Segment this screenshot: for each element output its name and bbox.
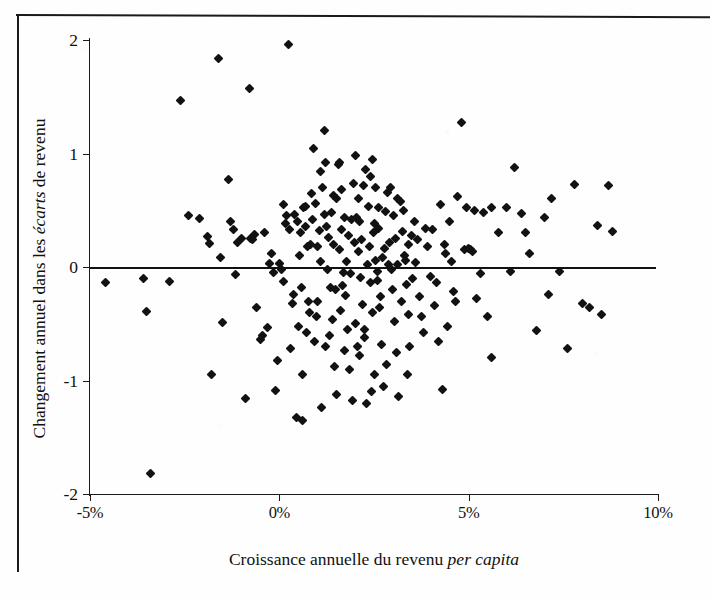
data-point [452, 192, 462, 202]
data-point [100, 278, 110, 288]
data-point [456, 118, 466, 128]
data-point [355, 217, 365, 227]
data-point [218, 318, 228, 328]
data-point [390, 317, 400, 327]
data-point [289, 289, 299, 299]
data-point [353, 194, 363, 204]
data-point [342, 256, 352, 266]
zero-reference-line [90, 267, 656, 269]
data-point [278, 277, 288, 287]
data-point [309, 337, 319, 347]
data-point [360, 324, 370, 334]
data-point [405, 341, 415, 351]
data-point [244, 84, 254, 94]
data-point [316, 167, 326, 177]
data-point [562, 344, 572, 354]
data-point [439, 239, 449, 249]
data-point [361, 398, 371, 408]
data-point [259, 228, 269, 238]
data-point [411, 258, 421, 268]
data-point [420, 223, 430, 233]
y-axis-title-part-2: de revenu [29, 119, 49, 192]
x-axis-title-italic: per capita [448, 549, 519, 569]
data-point [389, 211, 399, 221]
data-point [416, 312, 426, 322]
data-point [547, 194, 557, 204]
data-point [396, 296, 406, 306]
data-point [524, 248, 534, 258]
data-point [315, 256, 325, 266]
x-tick-label: -5% [55, 504, 125, 522]
y-axis-title-italic: écarts [29, 192, 49, 235]
data-point [381, 360, 391, 370]
data-point [379, 381, 389, 391]
data-point [293, 321, 303, 331]
data-point [138, 273, 148, 283]
data-point [288, 298, 298, 308]
x-tick-mark [658, 494, 659, 501]
data-point [308, 144, 318, 154]
data-point [366, 387, 376, 397]
data-point [240, 394, 250, 404]
data-point [343, 324, 353, 334]
data-point [437, 385, 447, 395]
data-point [206, 370, 216, 380]
data-point [298, 370, 308, 380]
y-tick-label: 2 [44, 31, 78, 49]
x-tick-mark [469, 494, 470, 501]
x-tick-label: 5% [434, 504, 504, 522]
data-point [355, 351, 365, 361]
data-point [494, 228, 504, 238]
data-point [252, 303, 262, 313]
data-point [483, 312, 493, 322]
data-point [376, 292, 386, 302]
data-point [336, 185, 346, 195]
data-point [363, 202, 373, 212]
data-point [267, 248, 277, 258]
data-point [348, 178, 358, 188]
data-point [539, 212, 549, 222]
data-point [399, 205, 409, 215]
y-tick-mark [83, 381, 90, 382]
data-point [532, 326, 542, 336]
data-point [418, 328, 428, 338]
x-tick-mark [279, 494, 280, 501]
figure-frame-left-rule [17, 14, 19, 572]
data-point [365, 242, 375, 252]
data-point [195, 213, 205, 223]
data-point [317, 403, 327, 413]
data-point [284, 40, 294, 50]
data-point [344, 364, 354, 374]
data-point [433, 337, 443, 347]
data-point [347, 396, 357, 406]
data-point [346, 269, 356, 279]
data-point [310, 198, 320, 208]
data-point [403, 310, 413, 320]
y-axis-title: Changement annuel dans les écarts de rev… [29, 64, 50, 494]
data-point [570, 179, 580, 189]
data-point [358, 180, 368, 190]
data-point [449, 287, 459, 297]
data-point [184, 211, 194, 221]
data-point [327, 314, 337, 324]
data-point [308, 214, 318, 224]
y-tick-mark [83, 494, 90, 495]
data-point [332, 389, 342, 399]
data-point [422, 242, 432, 252]
data-point [358, 300, 368, 310]
data-point [471, 294, 481, 304]
data-point [231, 270, 241, 280]
data-point [592, 220, 602, 230]
data-point [543, 289, 553, 299]
data-point [608, 227, 618, 237]
data-point [486, 353, 496, 363]
data-point [296, 282, 306, 292]
data-point [279, 200, 289, 210]
data-point [307, 188, 317, 198]
y-tick-mark [83, 154, 90, 155]
data-point [294, 251, 304, 261]
data-point [443, 321, 453, 331]
data-point [402, 370, 412, 380]
data-point [596, 310, 606, 320]
y-axis-title-part-1: Changement annuel dans les [29, 234, 49, 438]
